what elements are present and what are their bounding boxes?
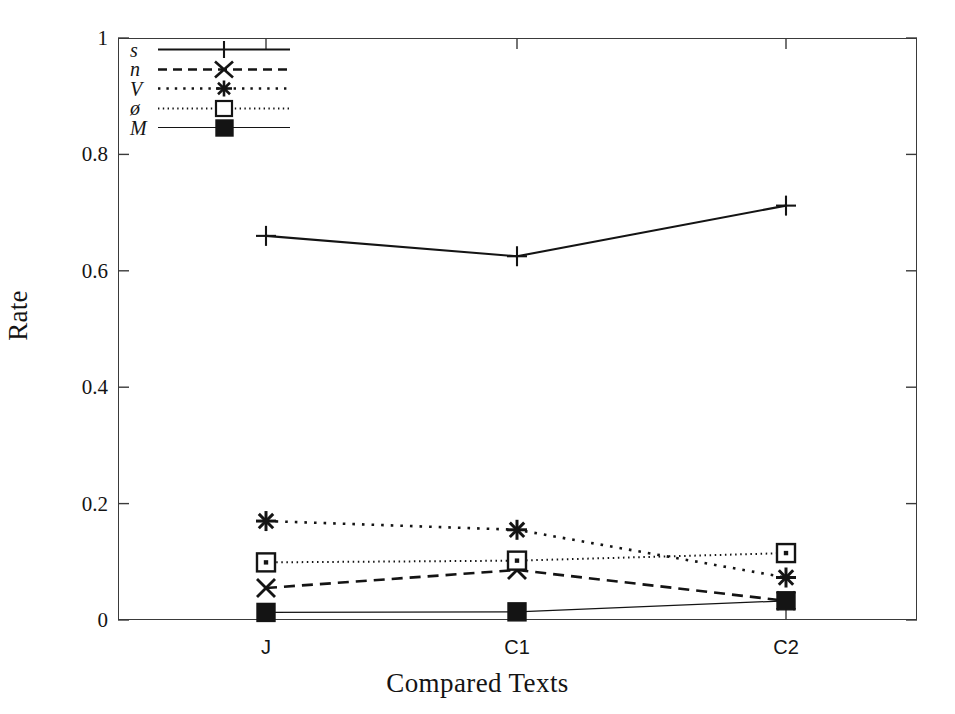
series-V: [256, 511, 796, 587]
series-layer: [256, 196, 796, 622]
legend-swatch-V: [154, 79, 294, 98]
legend-row[interactable]: V: [128, 79, 303, 98]
legend-swatch-o-slash: [154, 99, 294, 118]
series-s: [256, 196, 796, 267]
legend-row[interactable]: ø: [128, 99, 303, 118]
legend: s n V: [128, 40, 303, 138]
legend-swatch-M: [154, 118, 294, 137]
legend-row[interactable]: s: [128, 40, 303, 59]
legend-row[interactable]: M: [128, 118, 303, 137]
legend-swatch-s: [154, 40, 294, 59]
legend-swatch-n: [154, 60, 294, 79]
series-ø: [257, 544, 795, 571]
legend-label-M: M: [130, 116, 152, 139]
legend-row[interactable]: n: [128, 60, 303, 79]
series-M: [257, 592, 795, 622]
chart-figure: 1 0.8 0.6 0.4 0.2 0 Rate J C1 C2 Compare…: [0, 0, 955, 714]
